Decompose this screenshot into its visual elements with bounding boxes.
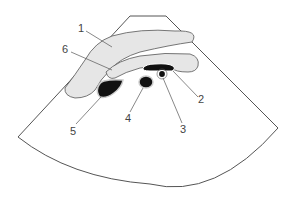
label-4: 4 [125, 112, 131, 124]
structure-4-vessel [139, 76, 153, 88]
structure-3-vessel [159, 71, 166, 78]
label-5: 5 [70, 125, 76, 137]
label-2: 2 [198, 93, 204, 105]
structure-2-vessel [143, 64, 174, 71]
label-6: 6 [62, 43, 68, 55]
ultrasound-diagram: 1 2 3 4 5 6 [0, 0, 296, 207]
label-1: 1 [78, 22, 84, 34]
label-3: 3 [180, 123, 186, 135]
